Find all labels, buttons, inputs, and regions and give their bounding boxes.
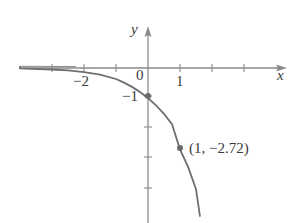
- y-axis: [145, 26, 152, 223]
- x-axis-label: x: [276, 67, 284, 83]
- exponential-graph: y x −2 0 1 −1 (1, −2.72): [0, 0, 288, 223]
- curve-neg-exp: [20, 66, 200, 217]
- point-label: (1, −2.72): [189, 140, 249, 157]
- point-1-neg2-72: [177, 145, 183, 151]
- origin-label: 0: [136, 67, 144, 83]
- point-y-intercept: [145, 93, 151, 99]
- x-tick-label-neg2: −2: [73, 73, 89, 89]
- x-tick-label-1: 1: [176, 73, 184, 89]
- y-tick-label-neg1: −1: [122, 88, 138, 104]
- y-axis-label: y: [129, 21, 138, 37]
